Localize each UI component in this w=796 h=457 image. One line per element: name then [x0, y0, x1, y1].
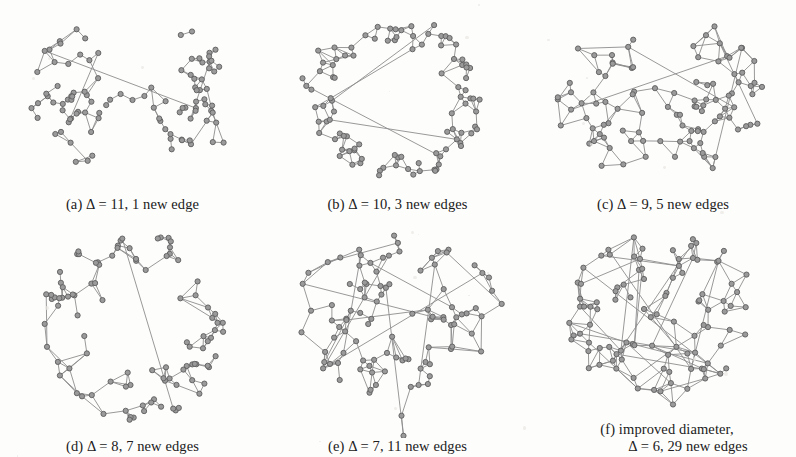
scan-speck [487, 272, 489, 274]
graph-nodes [29, 27, 226, 165]
graph-svg-e [265, 215, 530, 438]
graph-plot-d [0, 215, 265, 438]
scan-speck [465, 36, 469, 40]
panel-a: (a) Δ = 11, 1 new edge [0, 0, 265, 215]
panel-caption-b: (b) Δ = 10, 3 new edges [327, 196, 467, 215]
graph-edges [32, 29, 224, 162]
panel-caption-f-line2: Δ = 6, 29 new edges [600, 438, 747, 455]
graph-edges [45, 238, 223, 420]
scan-speck [589, 95, 590, 96]
panel-caption-a: (a) Δ = 11, 1 new edge [66, 196, 199, 215]
scan-speck [590, 143, 593, 146]
panel-e: (e) Δ = 7, 11 new edges [265, 215, 530, 457]
scan-speck [468, 295, 469, 296]
figure-canvas: (a) Δ = 11, 1 new edge (b) Δ = 10, 3 new… [0, 0, 796, 457]
scan-speck [663, 166, 666, 169]
panel-b: (b) Δ = 10, 3 new edges [265, 0, 530, 215]
panel-caption-f-line1: (f) improved diameter, [600, 421, 733, 437]
graph-nodes [555, 24, 764, 171]
panel-caption-f: (f) improved diameter, Δ = 6, 29 new edg… [578, 421, 747, 457]
scan-speck [586, 77, 588, 79]
panel-caption-c: (c) Δ = 9, 5 new edges [597, 196, 729, 215]
panel-caption-d: (d) Δ = 8, 7 new edges [66, 438, 199, 457]
graph-plot-f [530, 215, 796, 421]
graph-svg-f [530, 215, 796, 421]
scan-speck [547, 39, 549, 41]
panel-f: (f) improved diameter, Δ = 6, 29 new edg… [530, 215, 796, 457]
panel-grid: (a) Δ = 11, 1 new edge (b) Δ = 10, 3 new… [0, 0, 796, 457]
graph-plot-e [265, 215, 530, 438]
graph-edges [558, 26, 762, 168]
graph-svg-d [0, 215, 265, 438]
scan-speck [523, 426, 526, 429]
scan-speck [394, 407, 397, 410]
scan-speck [724, 372, 728, 376]
graph-nodes [299, 233, 504, 438]
scan-speck [141, 66, 144, 69]
scan-speck [478, 4, 480, 6]
panel-d: (d) Δ = 8, 7 new edges [0, 215, 265, 457]
panel-caption-e: (e) Δ = 7, 11 new edges [328, 438, 467, 457]
scan-speck [45, 306, 49, 310]
panel-c: (c) Δ = 9, 5 new edges [530, 0, 796, 215]
graph-plot-b [265, 0, 530, 196]
graph-svg-b [265, 0, 530, 196]
scan-speck [693, 357, 697, 361]
graph-svg-a [0, 0, 265, 196]
graph-nodes [42, 235, 226, 422]
graph-plot-a [0, 0, 265, 196]
